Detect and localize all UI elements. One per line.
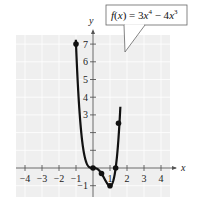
- function-label: f(x) = 3x4 − 4x3: [111, 8, 178, 22]
- svg-text:7: 7: [83, 39, 88, 50]
- svg-text:4: 4: [159, 173, 164, 184]
- svg-text:−1: −1: [77, 180, 88, 191]
- svg-text:−3: −3: [37, 173, 48, 184]
- svg-text:5: 5: [83, 74, 88, 85]
- y-axis-label: y: [88, 15, 94, 26]
- svg-text:−4: −4: [20, 173, 31, 184]
- function-graph: −4−3−2−11234−134567 y x f(x) = 3x4 − 4x3: [0, 0, 197, 203]
- svg-text:4: 4: [83, 92, 88, 103]
- x-axis-label: x: [180, 162, 186, 173]
- svg-text:2: 2: [125, 173, 130, 184]
- svg-text:3: 3: [83, 109, 88, 120]
- svg-text:3: 3: [142, 173, 147, 184]
- svg-text:−2: −2: [54, 173, 65, 184]
- svg-text:6: 6: [83, 56, 88, 67]
